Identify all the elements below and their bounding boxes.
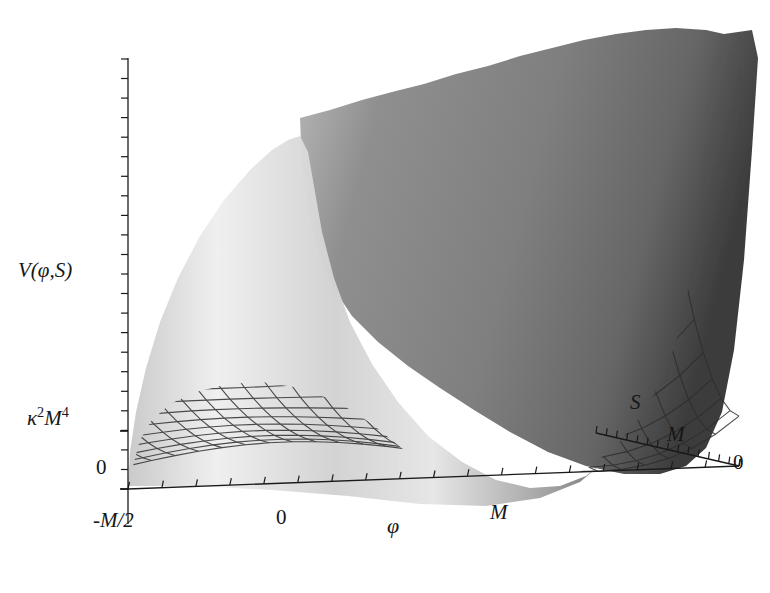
s-tick-label-m: M <box>667 422 685 447</box>
s-axis-label: S <box>630 390 641 415</box>
vertical-axis-label: V(φ,S) <box>18 258 72 283</box>
minor-tick <box>705 460 707 467</box>
surface-plot-canvas <box>0 0 770 593</box>
minor-tick <box>708 452 709 459</box>
vertical-tick-label-kappa2m4: κ2M4 <box>27 404 69 431</box>
s-tick-label-zero: 0 <box>733 450 744 475</box>
minor-tick <box>501 468 503 475</box>
phi-tick-label-zero: 0 <box>276 505 287 530</box>
phi-tick-label-minus-m-over-2: -M/2 <box>93 508 134 533</box>
phi-glyph: φ <box>38 258 50 282</box>
phi-tick-label-m: M <box>490 500 508 525</box>
minor-tick <box>535 467 537 474</box>
minor-tick <box>719 454 720 461</box>
potential-surface <box>128 28 758 506</box>
phi-axis-label: φ <box>387 513 399 539</box>
surface-plot-figure: V(φ,S) κ2M4 0 -M/2 0 M φ S M 0 <box>0 0 770 593</box>
minor-tick <box>569 465 571 472</box>
vertical-tick-label-zero: 0 <box>96 455 107 480</box>
m-exponent: 4 <box>62 404 69 420</box>
major-ticks <box>120 431 128 489</box>
minor-tick <box>729 457 730 464</box>
